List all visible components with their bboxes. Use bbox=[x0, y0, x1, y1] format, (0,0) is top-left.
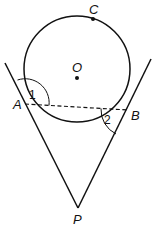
label-O: O bbox=[72, 60, 82, 75]
label-P: P bbox=[73, 212, 82, 227]
label-C: C bbox=[89, 2, 99, 17]
point-O-dot bbox=[75, 76, 79, 80]
angle-2-label: 2 bbox=[104, 113, 111, 127]
point-C-dot bbox=[91, 17, 95, 21]
angle-1-label: 1 bbox=[29, 88, 36, 102]
label-B: B bbox=[131, 108, 140, 123]
geometry-diagram: C O A B P 1 2 bbox=[0, 0, 153, 227]
label-A: A bbox=[12, 97, 22, 112]
